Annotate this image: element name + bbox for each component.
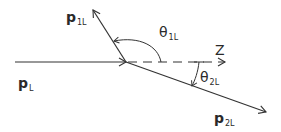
label-p-2L: p2L: [214, 111, 235, 128]
outgoing-momentum-1-vector: [93, 10, 126, 62]
label-theta-2L-base: θ: [200, 69, 209, 85]
label-p-L: pL: [18, 76, 34, 93]
label-theta-1L-base: θ: [159, 24, 168, 40]
label-p-1L: p1L: [66, 10, 87, 27]
theta-2L-angle-arc: [192, 62, 199, 86]
label-p-1L-subscript: 1L: [77, 18, 87, 27]
label-z-axis: Z: [215, 43, 225, 57]
label-theta-1L-subscript: 1L: [169, 33, 179, 42]
outgoing-momentum-2-vector: [126, 62, 266, 112]
label-p-1L-base: p: [66, 9, 76, 25]
diagram-graphics: [0, 0, 281, 132]
label-p-2L-subscript: 2L: [225, 119, 235, 128]
theta-1L-angle-arc: [114, 40, 161, 62]
label-theta-1L: θ1L: [159, 25, 178, 42]
label-p-L-base: p: [18, 75, 28, 91]
label-theta-2L-subscript: 2L: [210, 78, 220, 87]
label-p-L-subscript: L: [29, 84, 33, 93]
label-p-2L-base: p: [214, 110, 224, 126]
scattering-diagram: p1L θ1L Z pL θ2L p2L: [0, 0, 281, 132]
label-theta-2L: θ2L: [200, 70, 219, 87]
